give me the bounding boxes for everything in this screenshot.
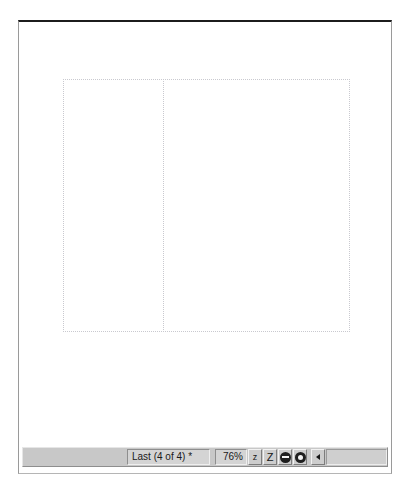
print-preview-canvas[interactable] [19, 22, 391, 443]
zoom-in-button[interactable]: Z [263, 449, 277, 465]
zoom-level-field[interactable]: 76% [215, 449, 247, 465]
preview-page-left[interactable] [63, 79, 163, 332]
status-bar-trough[interactable] [326, 449, 387, 465]
zoom-out-button[interactable]: z [248, 449, 262, 465]
triangle-left-icon [316, 454, 320, 460]
scroll-left-button[interactable] [311, 449, 325, 465]
status-bar: Last (4 of 4) * 76% z Z [19, 443, 391, 473]
application-window: Last (4 of 4) * 76% z Z [18, 20, 392, 474]
zoom-in-disc-button[interactable] [293, 449, 307, 465]
zoom-out-disc-button[interactable] [278, 449, 292, 465]
status-bar-strip: Last (4 of 4) * 76% z Z [22, 447, 388, 467]
page-navigation-field[interactable]: Last (4 of 4) * [127, 449, 210, 465]
preview-page-right[interactable] [163, 79, 350, 332]
status-bar-spacer [23, 448, 127, 466]
page-spread[interactable] [63, 79, 350, 332]
zoom-in-disc-icon [295, 452, 306, 463]
zoom-out-disc-icon [280, 452, 291, 463]
page-fold-divider [163, 79, 164, 332]
